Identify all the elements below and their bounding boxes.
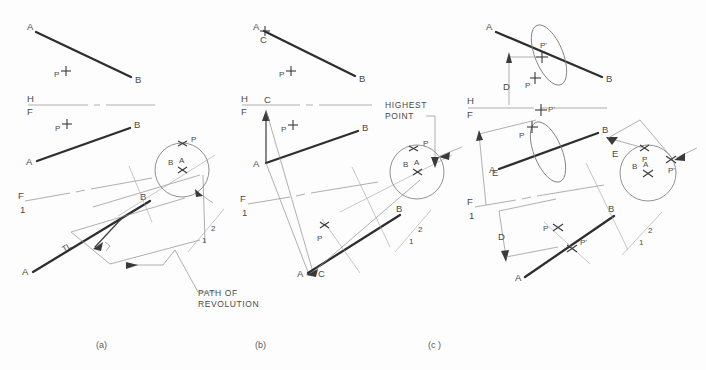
label-f2-b: F [240,193,246,204]
annotation-text-line1-b: HIGHEST [385,100,427,110]
label-b-front-c: B [602,124,608,135]
annotation-text-line1-a: PATH OF [198,288,238,298]
label-h-b: H [241,93,248,104]
label-1-a: 1 [20,204,25,215]
label-f-b: F [241,106,247,117]
label-a-top-c: A [486,21,493,32]
sheet-background [0,0,706,370]
label-h-a: H [27,93,34,104]
caption-a: (a) [96,340,107,350]
label-f-a: F [27,106,33,117]
label-d-top-c: D [503,81,510,92]
label-a-circle-a: A [179,156,185,165]
label-b-circle-a: B [168,158,173,167]
label-a-front-a: A [26,156,33,167]
label-p-prime-top-c: P' [540,41,547,50]
label-e-front-c: E [492,167,498,178]
label-a-top-a: A [27,21,34,32]
label-p-top-c: P [525,81,530,90]
label-b-top-b: B [359,73,365,84]
label-c-aux-b: C [318,268,325,279]
label-p-prime-aux-c: P' [580,238,587,247]
label-p-circle-a: P [191,135,196,144]
technical-drawing-canvas: A B P H F A B P [0,0,706,370]
label-a-circle-c: A [643,160,649,169]
label-b-front-b: B [362,122,368,133]
label-c-top-b: C [260,34,267,45]
label-p-front-c: P [519,131,524,140]
label-b-top-c: B [606,73,612,84]
label-2-c: 2 [648,226,653,235]
label-p-circle-b: P [423,139,428,148]
label-2-a: 2 [211,224,216,233]
label-1b-c: 1 [639,238,644,247]
label-p-aux-b: P [317,234,322,243]
label-b-aux-b: B [396,203,402,214]
caption-c: (c ) [428,340,441,350]
label-p-aux-c: P [543,224,548,233]
label-b-circle-b: B [403,160,408,169]
label-p-top-a: P [54,70,59,79]
label-a-aux-a: A [22,266,29,277]
label-p-top-b: P [279,70,284,79]
figure-sheet: A B P H F A B P [0,0,706,370]
label-p-front-b: P [281,125,286,134]
label-1-b: 1 [242,207,247,218]
label-c-front-b: C [264,94,271,105]
label-p-prime-front-c: P' [548,105,555,114]
label-b-aux-c: B [608,203,614,214]
label-a-top-b: A [253,21,260,32]
annotation-text-line2-b: POINT [385,111,414,121]
label-a-aux-c: A [515,272,522,283]
label-b-top-a: B [135,74,141,85]
label-a-aux-b: A [297,268,304,279]
label-d-aux-c: D [498,231,505,242]
label-f2-a: F [18,190,24,201]
label-1-c: 1 [469,210,474,221]
label-e-circle-c: E [612,148,618,159]
label-p-prime-circle-c: P' [668,166,675,175]
label-h-c: H [467,95,474,106]
label-p-front-a: P [55,124,60,133]
label-f-c: F [467,109,473,120]
label-f2-c: F [467,196,473,207]
label-2-b: 2 [418,225,423,234]
caption-b: (b) [255,340,266,350]
label-1b-b: 1 [409,237,414,246]
annotation-text-line2-a: REVOLUTION [198,299,259,309]
label-b-circle-c: B [632,162,637,171]
label-a-circle-b: A [414,158,420,167]
label-b-front-a: B [134,119,140,130]
label-1b-a: 1 [202,236,207,245]
label-a-front-b: A [253,158,260,169]
